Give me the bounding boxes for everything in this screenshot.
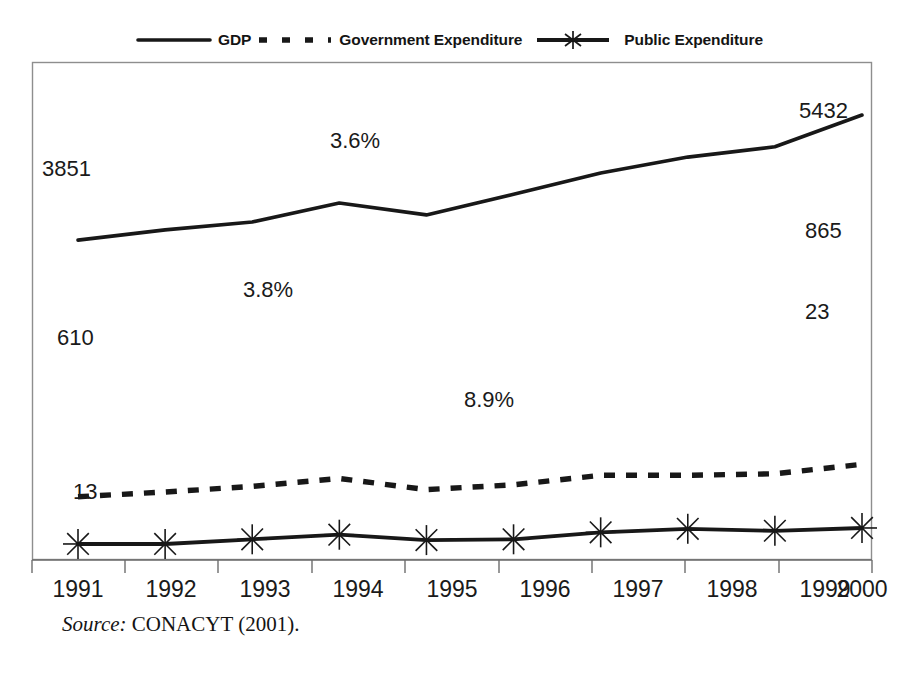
annotation-govexp-pct: 3.8%	[243, 277, 293, 302]
chart-plot-area: 1991 1992 1993 1994 1995 1996 1997 1998 …	[0, 0, 899, 682]
x-tick-label: 1994	[332, 576, 383, 602]
data-point-marker	[847, 513, 877, 543]
data-point-marker	[411, 525, 441, 555]
x-axis	[32, 560, 872, 573]
annotation-pubexp-pct: 8.9%	[464, 387, 514, 412]
chart-svg: 1991 1992 1993 1994 1995 1996 1997 1998 …	[0, 0, 899, 682]
chart-page: GDP Government Expenditure	[0, 0, 899, 682]
x-tick-label: 1996	[519, 576, 570, 602]
data-point-marker	[499, 524, 529, 554]
data-point-marker	[324, 520, 354, 550]
annotation-gdp-last: 5432	[799, 98, 848, 123]
source-note: Source: CONACYT (2001).	[62, 612, 299, 637]
x-tick-label: 1998	[706, 576, 757, 602]
data-point-marker	[673, 514, 703, 544]
x-tick-label: 1997	[612, 576, 663, 602]
annotation-govexp-last: 865	[805, 218, 842, 243]
annotation-gdp-first: 3851	[42, 156, 91, 181]
source-text: CONACYT (2001).	[132, 612, 300, 636]
annotation-pubexp-last: 23	[805, 299, 829, 324]
annotation-pubexp-first: 13	[73, 479, 97, 504]
data-point-marker	[150, 529, 180, 559]
annotation-govexp-first: 610	[57, 325, 94, 350]
plot-frame	[33, 63, 872, 560]
x-axis-ticks	[32, 560, 872, 573]
source-prefix: Source:	[62, 612, 127, 636]
annotation-gdp-peak: 3.6%	[330, 128, 380, 153]
x-tick-labels: 1991 1992 1993 1994 1995 1996 1997 1998 …	[52, 576, 887, 602]
data-point-marker	[586, 517, 616, 547]
data-point-marker	[63, 529, 93, 559]
x-tick-label: 1991	[52, 576, 103, 602]
x-tick-label: 1993	[239, 576, 290, 602]
x-tick-label: 1995	[426, 576, 477, 602]
data-point-marker	[760, 516, 790, 546]
x-tick-label: 2000	[836, 576, 887, 602]
x-tick-label: 1992	[145, 576, 196, 602]
data-point-marker	[237, 524, 267, 554]
